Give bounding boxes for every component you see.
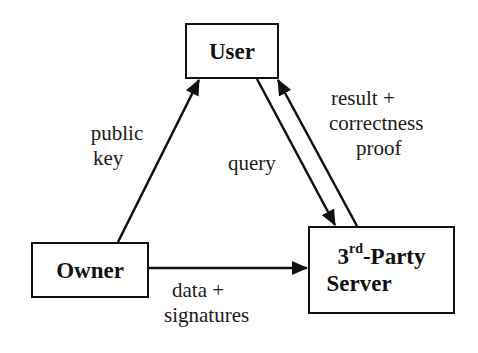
server-node-line1: 3rd-Party [337,243,425,270]
server-node: 3rd-Party Server [308,226,455,314]
result-label: result + correctness proof [329,86,449,161]
owner-node: Owner [31,242,149,298]
owner-node-label: Owner [56,257,124,284]
server-node-line2: Server [327,270,437,297]
user-node: User [185,23,279,79]
public-key-label: public key [82,121,152,171]
user-node-label: User [209,38,255,65]
query-label: query [228,151,276,176]
data-label: data + signatures [172,278,249,328]
